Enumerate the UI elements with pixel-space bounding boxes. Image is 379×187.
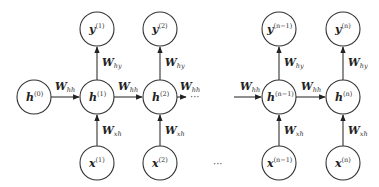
weight-xh-2: Wxh [165, 124, 185, 138]
weight-hy-n1: Why [284, 56, 304, 70]
weight-hh-4: Whh [301, 80, 321, 94]
weight-hy-n: Why [348, 56, 368, 70]
weight-hh-1: Whh [118, 80, 138, 94]
weight-hh-0: Whh [55, 80, 75, 94]
ellipsis-hidden: ··· [190, 91, 200, 102]
weight-hh-3: Whh [240, 80, 260, 94]
weight-xh-n: Wxh [348, 124, 368, 138]
ellipsis-input: ··· [213, 158, 223, 169]
weight-xh-1: Wxh [102, 124, 122, 138]
weight-hy-1: Why [102, 56, 122, 70]
weight-hy-2: Why [165, 56, 185, 70]
weight-xh-n1: Wxh [284, 124, 304, 138]
rnn-diagram: h(0) y(1) h(1) x(1) y(2) h(2) x(2) y(n−1… [0, 0, 379, 187]
